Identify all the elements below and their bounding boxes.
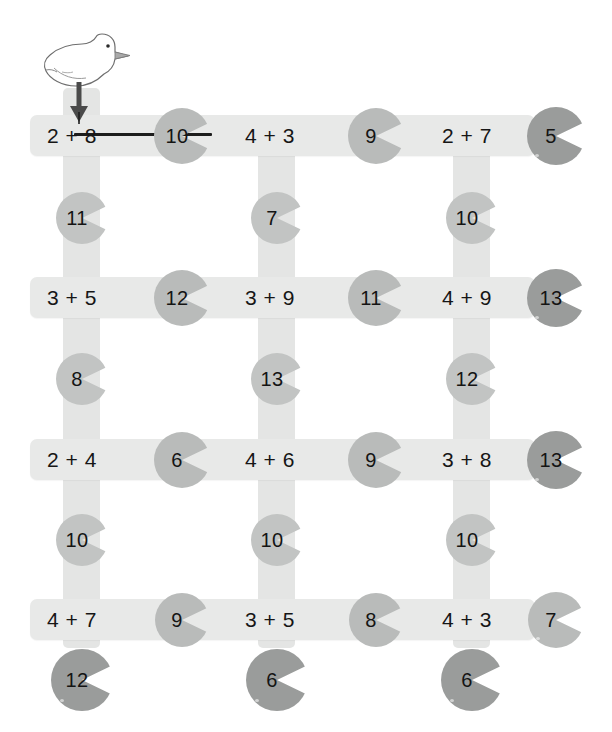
lily-pad-number: 9 [171,609,182,632]
lily-pad-number: 6 [171,449,182,472]
equation-row-1-col-2: 4 + 3 [245,124,295,148]
lily-pad-number: 13 [540,449,563,472]
equation-row-3-col-2: 4 + 6 [245,448,295,472]
lily-pad-number: 12 [166,287,189,310]
lily-pad-number: 11 [66,207,87,230]
lily-pad-number: 10 [66,529,89,552]
lily-pad-row-4-answer-2[interactable]: 8 [349,593,403,647]
lily-pad-band-1-col-2[interactable]: 7 [251,192,303,244]
lily-pad-row-4-answer-1[interactable]: 9 [155,593,209,647]
lily-pad-highlight [535,478,539,481]
lily-pad-bottom-col-2[interactable]: 6 [246,649,308,711]
lily-pad-number: 9 [365,449,376,472]
lily-pad-number: 8 [71,368,82,391]
lily-pad-band-2-col-2[interactable]: 13 [251,353,303,405]
lily-pad-highlight [535,316,539,319]
equation-row-4-col-2: 3 + 5 [245,608,295,632]
lily-pad-band-3-col-1[interactable]: 10 [56,514,108,566]
lily-pad-number: 11 [360,287,381,310]
lily-pad-band-2-col-3[interactable]: 12 [446,353,498,405]
lily-pad-number: 6 [266,669,277,692]
lily-pad-number: 13 [540,287,563,310]
worksheet-canvas: 2 + 8 4 + 3 2 + 7 10 9 5 11 7 10 3 + 5 3… [0,0,612,732]
lily-pad-band-1-col-1[interactable]: 11 [56,192,108,244]
equation-row-1-col-3: 2 + 7 [442,124,492,148]
lily-pad-row-3-end[interactable]: 13 [527,431,585,489]
lily-pad-number: 13 [261,368,284,391]
lily-pad-row-1-answer-2[interactable]: 9 [348,108,404,164]
lily-pad-row-3-answer-2[interactable]: 9 [348,432,404,488]
lily-pad-row-1-end[interactable]: 5 [527,107,585,165]
lily-pad-band-3-col-2[interactable]: 10 [251,514,303,566]
equation-row-4-col-3: 4 + 3 [442,608,492,632]
lily-pad-bottom-col-1[interactable]: 12 [51,649,113,711]
lily-pad-number: 9 [365,125,376,148]
lily-pad-number: 10 [166,125,189,148]
equation-row-4-col-1: 4 + 7 [47,608,97,632]
lily-pad-highlight [535,154,539,157]
lily-pad-number: 6 [461,669,472,692]
lily-pad-row-4-end[interactable]: 7 [528,592,584,648]
equation-row-2-col-1: 3 + 5 [47,286,97,310]
lily-pad-number: 10 [456,207,479,230]
lily-pad-row-2-answer-1[interactable]: 12 [154,270,210,326]
lily-pad-band-1-col-3[interactable]: 10 [446,192,498,244]
lily-pad-number: 12 [66,669,89,692]
lily-pad-row-1-answer-1[interactable]: 10 [154,108,210,164]
lily-pad-band-3-col-3[interactable]: 10 [446,514,498,566]
lily-pad-number: 7 [266,207,277,230]
equation-row-3-col-3: 3 + 8 [442,448,492,472]
lily-pad-number: 10 [261,529,284,552]
lily-pad-band-2-col-1[interactable]: 8 [56,353,108,405]
lily-pad-number: 12 [456,368,479,391]
lily-pad-number: 10 [456,529,479,552]
equation-row-2-col-3: 4 + 9 [442,286,492,310]
drawn-down-arrow-icon [66,82,92,124]
lily-pad-row-2-end[interactable]: 13 [527,269,585,327]
equation-row-1-col-1: 2 + 8 [47,124,97,148]
lily-pad-number: 7 [545,609,556,632]
lily-pad-bottom-col-3[interactable]: 6 [441,649,503,711]
equation-row-3-col-1: 2 + 4 [47,448,97,472]
lily-pad-row-3-answer-1[interactable]: 6 [154,432,210,488]
lily-pad-number: 5 [545,125,556,148]
lily-pad-number: 8 [365,609,376,632]
equation-row-2-col-2: 3 + 9 [245,286,295,310]
lily-pad-row-2-answer-2[interactable]: 11 [348,270,404,326]
